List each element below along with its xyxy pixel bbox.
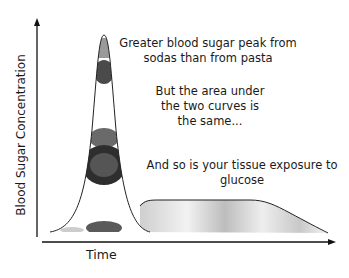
annotation-line: sodas than from pasta — [118, 51, 298, 66]
annotation-line: And so is your tissue exposure to — [142, 158, 342, 173]
annotation-line: Greater blood sugar peak from — [118, 36, 298, 51]
y-axis-arrow-icon — [34, 18, 40, 26]
pasta-curve — [140, 200, 328, 233]
y-axis — [34, 18, 40, 237]
annotation-peak: Greater blood sugar peak from sodas than… — [118, 36, 298, 66]
annotation-line: glucose — [142, 173, 342, 188]
annotation-line: But the area under — [150, 84, 270, 99]
annotation-line: the two curves is — [150, 99, 270, 114]
x-axis-label: Time — [86, 247, 117, 262]
annotation-line: the same... — [150, 114, 270, 129]
annotation-area: But the area under the two curves is the… — [150, 84, 270, 129]
x-axis-arrow-icon — [328, 239, 336, 245]
annotation-exposure: And so is your tissue exposure to glucos… — [142, 158, 342, 188]
x-axis — [42, 239, 336, 245]
y-axis-label: Blood Sugar Concentration — [14, 54, 28, 216]
